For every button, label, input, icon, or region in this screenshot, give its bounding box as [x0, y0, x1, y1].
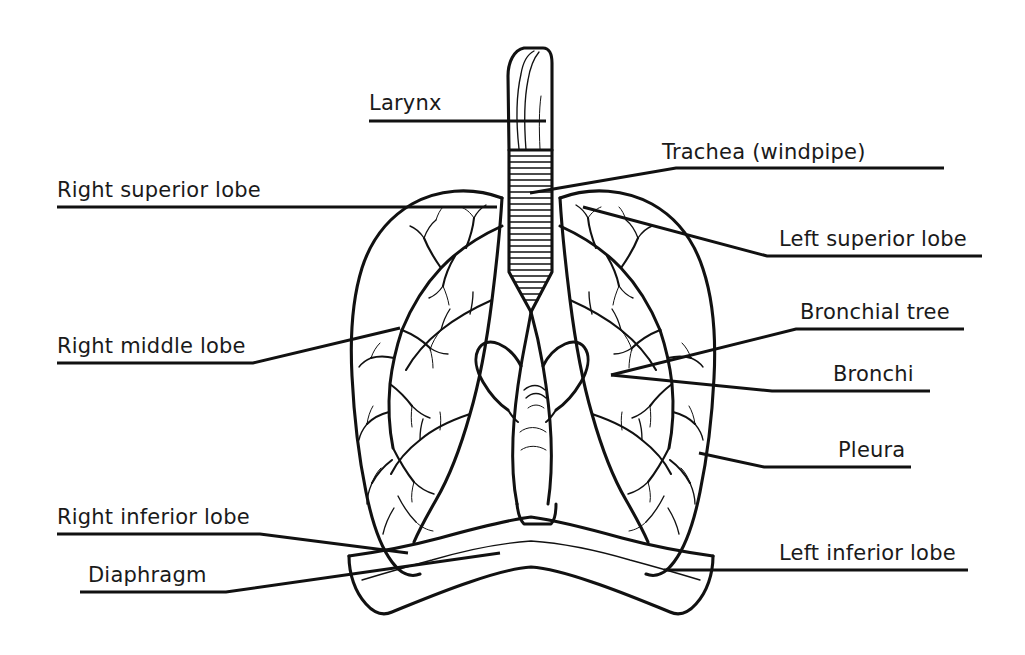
label-left-inferior-lobe: Left inferior lobe: [779, 541, 956, 565]
anatomy-illustration: Larynx Trachea (windpipe) Right superior…: [0, 0, 1025, 655]
label-diaphragm: Diaphragm: [88, 563, 207, 587]
bronchi-structure: [476, 312, 588, 524]
label-left-superior-lobe: Left superior lobe: [779, 227, 967, 251]
label-right-middle-lobe: Right middle lobe: [57, 334, 246, 358]
label-larynx: Larynx: [369, 91, 442, 115]
leader-trachea: [530, 168, 944, 193]
label-bronchi: Bronchi: [833, 362, 914, 386]
right-lung: [351, 191, 502, 575]
label-bronchial-tree: Bronchial tree: [800, 300, 950, 324]
larynx-structure: [508, 48, 552, 150]
leader-right-inferior-lobe: [57, 534, 408, 553]
label-pleura: Pleura: [838, 438, 905, 462]
lung-anatomy-diagram: Larynx Trachea (windpipe) Right superior…: [0, 0, 1025, 655]
trachea-cartilage-rings: [510, 156, 551, 300]
label-right-superior-lobe: Right superior lobe: [57, 178, 261, 202]
label-right-inferior-lobe: Right inferior lobe: [57, 505, 250, 529]
label-trachea: Trachea (windpipe): [661, 140, 866, 164]
trachea-structure: [509, 150, 552, 312]
